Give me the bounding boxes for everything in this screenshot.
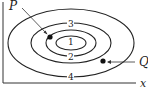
point-q-label: Q (139, 55, 148, 69)
point-p (47, 34, 52, 39)
point-p-label: P (8, 0, 18, 13)
point-q (100, 58, 105, 63)
arrowhead-icon (107, 60, 111, 64)
contour-label-2: 2 (68, 52, 74, 62)
x-axis-label: x (140, 77, 147, 90)
contour-label-3: 3 (68, 19, 74, 29)
contour-label-1: 1 (68, 37, 74, 47)
contour-label-4: 4 (68, 72, 74, 82)
contour-diagram: x 1 2 3 4 P Q (0, 0, 148, 91)
